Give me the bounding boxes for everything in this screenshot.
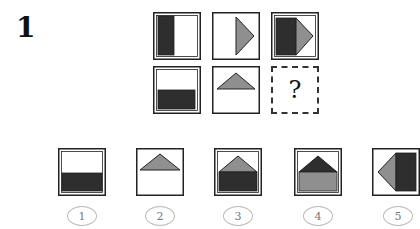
gray-triangle-right-icon <box>212 12 260 60</box>
puzzle-cell-r1c3 <box>271 12 319 60</box>
option-2-label: 2 <box>145 206 175 226</box>
dark-rect-bottom-icon <box>58 148 106 196</box>
question-number: 1 <box>16 14 35 42</box>
option-3[interactable] <box>214 148 262 196</box>
puzzle-cell-r1c1 <box>153 12 201 60</box>
option-4[interactable] <box>294 148 342 196</box>
option-5-label: 5 <box>383 206 413 226</box>
option-5[interactable] <box>372 148 420 196</box>
option-4-label: 4 <box>303 206 333 226</box>
missing-cell: ? <box>271 66 319 114</box>
gray-triangle-up-icon <box>212 66 260 114</box>
puzzle-cell-r2c1 <box>153 66 201 114</box>
puzzle-cell-r1c2 <box>212 12 260 60</box>
gray-triangle-dark-rect-icon <box>214 148 262 196</box>
option-2[interactable] <box>136 148 184 196</box>
dark-rect-bottom-icon <box>153 66 201 114</box>
dark-triangle-gray-rect-icon <box>294 148 342 196</box>
gray-triangle-left-dark-rect-icon <box>372 148 420 196</box>
puzzle-cell-r2c2 <box>212 66 260 114</box>
option-1-label: 1 <box>67 206 97 226</box>
dark-rect-gray-triangle-right-icon <box>271 12 319 60</box>
question-mark: ? <box>289 76 302 104</box>
option-1[interactable] <box>58 148 106 196</box>
option-3-label: 3 <box>223 206 253 226</box>
gray-triangle-up-icon <box>136 148 184 196</box>
dark-rect-left-icon <box>153 12 201 60</box>
